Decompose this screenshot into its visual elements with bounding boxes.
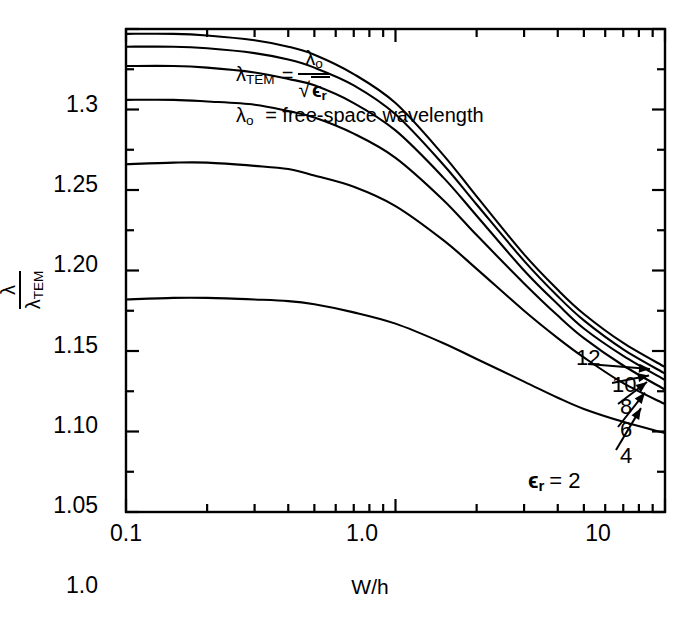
x-tick-label: 0.1 (81, 522, 171, 545)
y-tick-label: 1.05 (18, 494, 98, 517)
y-tick-label: 1.3 (18, 93, 98, 116)
figure-container: 1.3 1.25 1.20 1.15 1.10 1.05 1.0 0.1 1.0… (0, 0, 681, 619)
curve-label-epsilon-r-2: ϵr= 2 (528, 468, 581, 494)
x-tick-label: 1.0 (317, 522, 407, 545)
formula-fraction: λo √ϵr (298, 47, 329, 103)
formula-denominator: √ϵr (298, 75, 329, 103)
formula-numerator: λo (298, 47, 329, 75)
curve-label-12: 12 (576, 345, 600, 371)
y-axis-title-denominator: λTEM (21, 271, 46, 310)
y-axis-title: λ λTEM (0, 230, 46, 350)
y-tick-label: 1.25 (18, 173, 98, 196)
formula-lhs: λTEM (236, 63, 275, 87)
y-axis-title-numerator: λ (0, 271, 21, 310)
y-tick-label: 1.0 (18, 574, 98, 597)
annotation-formula: λTEM = λo √ϵr (236, 52, 484, 98)
definition-symbol: λo (236, 104, 254, 126)
y-tick-label: 1.10 (18, 414, 98, 437)
curve-label-6: 6 (620, 417, 632, 443)
curve-label-4: 4 (620, 443, 632, 469)
x-axis-title: W/h (310, 576, 430, 597)
definition-text: = free-space wavelength (265, 104, 483, 126)
annotation-definition: λo = free-space wavelength (236, 104, 484, 128)
x-tick-label: 10 (553, 522, 643, 545)
annotation-block: λTEM = λo √ϵr λo = free-space wavelength (236, 52, 484, 128)
radical-icon: √ (298, 78, 310, 101)
formula-equals: = (282, 64, 294, 87)
